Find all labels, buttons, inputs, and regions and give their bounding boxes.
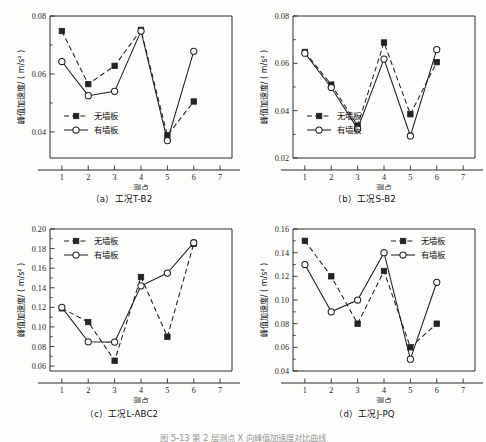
- data-point-no-panel: [408, 345, 413, 350]
- y-tick-label: 0.08: [32, 12, 46, 21]
- series-line-with-panel: [305, 253, 437, 359]
- y-tick-label: 0.08: [275, 12, 289, 21]
- data-point-with-panel: [138, 28, 144, 34]
- y-tick-label: 0.06: [32, 70, 46, 79]
- x-tick-label: 7: [461, 173, 465, 182]
- data-point-with-panel: [112, 339, 118, 345]
- chart-panel-c: 0.060.080.100.120.140.160.180.201234567峰…: [0, 213, 243, 426]
- chart-svg-b: 0.020.040.060.081234567峰值加速度/ ( m/s² )测点…: [243, 0, 486, 190]
- legend-marker-circle-icon: [316, 127, 322, 133]
- series-line-no-panel: [62, 244, 194, 361]
- legend-label-with_panel: 有墙板: [94, 125, 119, 135]
- legend-label-no_panel: 无墙板: [421, 236, 446, 246]
- x-tick-label: 3: [113, 386, 117, 395]
- x-tick-label: 6: [192, 173, 196, 182]
- x-tick-label: 7: [461, 386, 465, 395]
- data-point-no-panel: [59, 28, 64, 33]
- y-tick-label: 0.16: [275, 225, 289, 234]
- x-tick-label: 6: [435, 386, 439, 395]
- y-tick-label: 0.04: [275, 367, 289, 376]
- x-tick-label: 1: [303, 386, 307, 395]
- y-tick-label: 0.04: [275, 107, 289, 116]
- x-tick-label: 4: [139, 173, 143, 182]
- y-tick-label: 0.06: [32, 362, 46, 371]
- y-tick-label: 0.20: [32, 225, 46, 234]
- data-point-with-panel: [434, 279, 440, 285]
- data-point-with-panel: [85, 93, 91, 99]
- subplot-caption-d: （d）工况J-PQ: [243, 407, 486, 419]
- data-point-with-panel: [328, 84, 334, 90]
- y-tick-label: 0.14: [32, 284, 46, 293]
- y-axis-label: 峰值加速度/ ( m/s² ): [259, 50, 269, 124]
- figure-caption: 图 5-13 第 2 层测点 X 向峰值加速度对比曲线: [0, 433, 486, 442]
- x-tick-label: 6: [192, 386, 196, 395]
- data-point-with-panel: [328, 309, 334, 315]
- chart-panel-b: 0.020.040.060.081234567峰值加速度/ ( m/s² )测点…: [243, 0, 486, 213]
- series-line-with-panel: [62, 31, 194, 141]
- x-tick-label: 5: [408, 386, 412, 395]
- legend-marker-square-icon: [73, 238, 78, 243]
- x-tick-label: 1: [60, 173, 64, 182]
- data-point-no-panel: [302, 238, 307, 243]
- y-tick-label: 0.12: [275, 272, 289, 281]
- data-point-with-panel: [85, 339, 91, 345]
- plot-area-b: 0.020.040.060.081234567峰值加速度/ ( m/s² )测点…: [243, 0, 486, 190]
- x-tick-label: 5: [165, 386, 169, 395]
- data-point-with-panel: [407, 133, 413, 139]
- data-point-with-panel: [355, 297, 361, 303]
- data-point-with-panel: [381, 56, 387, 62]
- y-tick-label: 0.18: [32, 245, 46, 254]
- y-axis-label: 峰值加速度/ ( m/s² ): [16, 50, 26, 124]
- y-tick-label: 0.04: [32, 128, 46, 137]
- data-point-no-panel: [112, 358, 117, 363]
- x-tick-label: 5: [165, 173, 169, 182]
- x-axis-label: 测点: [376, 184, 392, 190]
- data-point-no-panel: [355, 321, 360, 326]
- legend-marker-circle-icon: [73, 252, 79, 258]
- x-tick-label: 2: [329, 386, 333, 395]
- legend-marker-circle-icon: [73, 127, 79, 133]
- x-tick-label: 2: [329, 173, 333, 182]
- subplot-caption-b: （b）工况S-B2: [243, 192, 486, 204]
- legend-label-no_panel: 无墙板: [94, 236, 119, 246]
- data-point-no-panel: [408, 112, 413, 117]
- series-line-with-panel: [305, 50, 437, 136]
- data-point-no-panel: [434, 59, 439, 64]
- x-tick-label: 6: [435, 173, 439, 182]
- y-tick-label: 0.06: [275, 59, 289, 68]
- y-tick-label: 0.10: [275, 296, 289, 305]
- legend-label-no_panel: 无墙板: [94, 111, 119, 121]
- y-tick-label: 0.08: [32, 343, 46, 352]
- legend-marker-square-icon: [400, 238, 405, 243]
- data-point-no-panel: [138, 274, 143, 279]
- x-tick-label: 5: [408, 173, 412, 182]
- subplot-caption-c: （c）工况L-ABC2: [0, 407, 243, 419]
- data-point-no-panel: [112, 63, 117, 68]
- y-tick-label: 0.14: [275, 249, 289, 258]
- plot-area-a: 0.040.060.081234567峰值加速度/ ( m/s² )测点无墙板有…: [0, 0, 243, 190]
- data-point-with-panel: [381, 250, 387, 256]
- data-point-with-panel: [191, 48, 197, 54]
- y-tick-label: 0.16: [32, 264, 46, 273]
- x-tick-label: 3: [356, 386, 360, 395]
- x-axis-label: 测点: [133, 397, 149, 403]
- legend-marker-square-icon: [73, 113, 78, 118]
- data-point-no-panel: [434, 321, 439, 326]
- x-tick-label: 1: [60, 386, 64, 395]
- x-tick-label: 2: [86, 173, 90, 182]
- data-point-with-panel: [302, 50, 308, 56]
- x-tick-label: 1: [303, 173, 307, 182]
- plot-area-c: 0.060.080.100.120.140.160.180.201234567峰…: [0, 213, 243, 403]
- chart-panel-d: 0.040.060.080.100.120.140.161234567峰值加速度…: [243, 213, 486, 426]
- chart-svg-d: 0.040.060.080.100.120.140.161234567峰值加速度…: [243, 213, 486, 403]
- x-tick-label: 3: [113, 173, 117, 182]
- x-tick-label: 3: [356, 173, 360, 182]
- data-point-with-panel: [59, 58, 65, 64]
- data-point-with-panel: [112, 88, 118, 94]
- data-point-with-panel: [434, 47, 440, 53]
- series-line-with-panel: [62, 243, 194, 342]
- chart-svg-c: 0.060.080.100.120.140.160.180.201234567峰…: [0, 213, 243, 403]
- y-tick-label: 0.08: [275, 320, 289, 329]
- data-point-no-panel: [329, 274, 334, 279]
- y-tick-label: 0.02: [275, 154, 289, 163]
